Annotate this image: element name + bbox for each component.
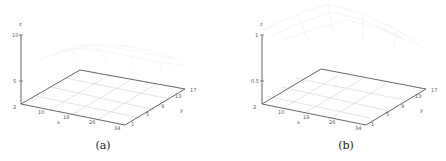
z-tick-top: 10: [12, 32, 18, 38]
caption-a: (a): [73, 139, 133, 152]
y-tick: 13: [175, 93, 181, 99]
z-axis-label: z: [19, 21, 22, 27]
x-tick: 26: [89, 119, 95, 125]
y-tick: 13: [415, 93, 421, 99]
surface-plot-a: z 10 5 2 10 18 26 34 x 1 5 9 13 17 y: [0, 0, 223, 135]
x-tick: 18: [63, 114, 69, 120]
floor-grid: [266, 75, 400, 120]
z-tick-mid: 0.5: [251, 78, 259, 84]
y-tick: 9: [161, 103, 164, 109]
panel-a: z 10 5 2 10 18 26 34 x 1 5 9 13 17 y (a): [0, 0, 223, 161]
y-tick: 5: [146, 111, 149, 117]
y-tick: 1: [371, 121, 374, 127]
x-tick: 34: [355, 125, 361, 131]
base-frame: [262, 69, 426, 125]
z-tick-mid: 5: [13, 78, 16, 84]
x-tick: 10: [38, 109, 44, 115]
y-tick: 1: [131, 121, 134, 127]
y-axis-label: y: [180, 107, 183, 114]
surface-plot-b: z 1 0.5 2 10 18 26 34 x 1 5 9 13 17 y: [223, 0, 446, 135]
floor-grid: [36, 75, 170, 120]
z-tick-top: 1: [255, 32, 258, 38]
x-tick-start: 2: [253, 104, 256, 110]
x-tick: 26: [329, 119, 335, 125]
x-tick-start: 2: [13, 104, 16, 110]
x-axis-label: x: [297, 119, 300, 125]
y-tick: 9: [401, 103, 404, 109]
x-tick: 34: [114, 125, 120, 131]
surface-mesh: [263, 4, 428, 50]
panel-b: z 1 0.5 2 10 18 26 34 x 1 5 9 13 17 y (b…: [223, 0, 446, 161]
y-axis-label: y: [420, 107, 423, 114]
x-tick: 10: [278, 109, 284, 115]
y-tick: 5: [386, 111, 389, 117]
caption-b: (b): [316, 139, 376, 152]
surface-mesh: [40, 44, 185, 70]
y-tick: 17: [431, 87, 437, 93]
y-tick: 17: [190, 87, 196, 93]
x-tick: 18: [303, 114, 309, 120]
z-axis-label: z: [260, 21, 263, 27]
x-axis-label: x: [57, 119, 60, 125]
